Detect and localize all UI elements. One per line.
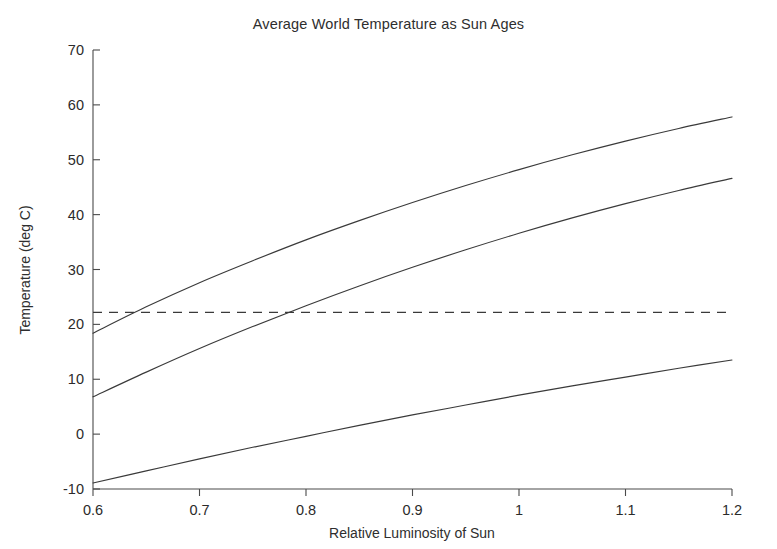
series-line-lower: [93, 360, 732, 483]
y-tick-label: 60: [68, 97, 84, 113]
x-tick-label: 0.7: [189, 502, 209, 518]
y-tick-label: -10: [63, 481, 84, 497]
x-tick-label: 1.2: [722, 502, 742, 518]
y-tick-label: 30: [68, 262, 84, 278]
series-line-upper: [93, 117, 732, 333]
y-tick-label: 70: [68, 42, 84, 58]
x-axis-title: Relative Luminosity of Sun: [329, 525, 495, 541]
plot-area: -10010203040506070 0.60.70.80.911.11.2 R…: [0, 0, 777, 549]
y-tick-label: 10: [68, 371, 84, 387]
x-tick-label: 0.8: [296, 502, 316, 518]
axis-spines: [93, 50, 732, 489]
x-tick-label: 1.1: [615, 502, 635, 518]
y-tick-label: 0: [76, 426, 84, 442]
data-series-group: [93, 117, 732, 483]
y-axis-title: Temperature (deg C): [17, 205, 33, 334]
x-axis-ticks: 0.60.70.80.911.11.2: [83, 489, 742, 518]
y-tick-label: 50: [68, 152, 84, 168]
y-axis-ticks: -10010203040506070: [63, 42, 100, 497]
x-tick-label: 1: [515, 502, 523, 518]
y-tick-label: 20: [68, 316, 84, 332]
figure: Average World Temperature as Sun Ages -1…: [0, 0, 777, 549]
x-tick-label: 0.9: [402, 502, 422, 518]
y-tick-label: 40: [68, 207, 84, 223]
x-tick-label: 0.6: [83, 502, 103, 518]
